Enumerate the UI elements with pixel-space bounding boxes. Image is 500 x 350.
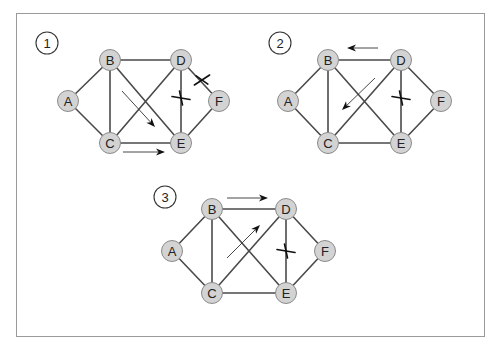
node-d: D: [171, 50, 192, 71]
node-label: E: [282, 286, 291, 301]
node-c: C: [318, 133, 339, 154]
node-b: B: [100, 50, 121, 71]
direction-arrow-icon: [227, 195, 268, 202]
node-label: D: [281, 202, 290, 217]
node-f: F: [209, 91, 230, 112]
node-label: B: [106, 53, 115, 68]
node-d: D: [276, 199, 297, 220]
direction-arrow-icon: [123, 149, 165, 156]
node-label: E: [177, 136, 186, 151]
step-number-badge: 2: [269, 32, 291, 54]
node-label: E: [397, 136, 406, 151]
node-a: A: [162, 241, 183, 262]
node-label: F: [437, 94, 445, 109]
diagram-step-2: ABCDEF2: [269, 32, 452, 154]
node-e: E: [171, 133, 192, 154]
node-e: E: [276, 283, 297, 304]
node-label: D: [176, 53, 185, 68]
node-label: C: [207, 286, 216, 301]
edges: [68, 60, 219, 143]
node-a: A: [58, 91, 79, 112]
nodes: ABCDEF: [58, 50, 230, 154]
node-label: A: [168, 244, 177, 259]
node-a: A: [278, 91, 299, 112]
diagram-step-3: ABCDEF3: [154, 186, 336, 304]
edges: [172, 209, 325, 293]
node-label: F: [321, 244, 329, 259]
direction-arrow-icon: [227, 225, 260, 258]
node-b: B: [318, 50, 339, 71]
node-f: F: [315, 241, 336, 262]
edges: [288, 60, 441, 143]
node-label: B: [208, 202, 217, 217]
node-label: D: [396, 53, 405, 68]
node-c: C: [202, 283, 223, 304]
step-number-badge: 3: [154, 186, 176, 208]
svg-text:3: 3: [161, 190, 168, 205]
node-e: E: [391, 133, 412, 154]
diagram-step-1: ABCDEF1: [36, 32, 230, 156]
node-label: B: [324, 53, 333, 68]
step-number-badge: 1: [36, 32, 58, 54]
diagram-panels: ABCDEF1ABCDEF2ABCDEF3: [36, 32, 452, 304]
node-c: C: [100, 133, 121, 154]
node-label: C: [323, 136, 332, 151]
node-b: B: [202, 199, 223, 220]
direction-arrow-icon: [347, 45, 378, 52]
node-label: F: [215, 94, 223, 109]
svg-text:2: 2: [276, 36, 283, 51]
diagram-frame: [17, 14, 485, 337]
graph-diagram-canvas: ABCDEF1ABCDEF2ABCDEF3: [0, 0, 500, 350]
node-label: A: [284, 94, 293, 109]
node-f: F: [431, 91, 452, 112]
node-d: D: [391, 50, 412, 71]
node-label: A: [64, 94, 73, 109]
svg-text:1: 1: [43, 36, 50, 51]
node-label: C: [105, 136, 114, 151]
